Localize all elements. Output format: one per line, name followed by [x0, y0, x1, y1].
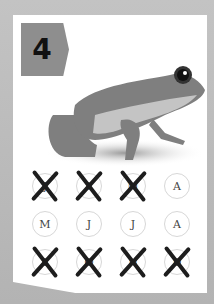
- card-number: 4: [32, 33, 51, 66]
- month-dec: D: [155, 243, 199, 281]
- month-label: J: [32, 173, 58, 199]
- month-feb: F: [67, 167, 111, 205]
- species-card: 4 J F M A M J J A S O N D: [13, 15, 207, 293]
- month-jun: J: [67, 205, 111, 243]
- month-apr: A: [155, 167, 199, 205]
- month-label: O: [76, 249, 102, 275]
- month-label: M: [32, 211, 58, 237]
- month-nov: N: [111, 243, 155, 281]
- month-jul: J: [111, 205, 155, 243]
- month-label: S: [32, 249, 58, 275]
- card-number-badge: 4: [21, 23, 69, 76]
- month-aug: A: [155, 205, 199, 243]
- month-oct: O: [67, 243, 111, 281]
- month-label: J: [76, 211, 102, 237]
- month-label: M: [120, 173, 146, 199]
- month-jan: J: [23, 167, 67, 205]
- month-label: J: [120, 211, 146, 237]
- month-label: A: [164, 173, 190, 199]
- month-mar: M: [111, 167, 155, 205]
- month-may: M: [23, 205, 67, 243]
- month-label: N: [120, 249, 146, 275]
- month-label: D: [164, 249, 190, 275]
- month-label: F: [76, 173, 102, 199]
- month-grid: J F M A M J J A S O N D: [23, 167, 199, 281]
- month-sep: S: [23, 243, 67, 281]
- month-label: A: [164, 211, 190, 237]
